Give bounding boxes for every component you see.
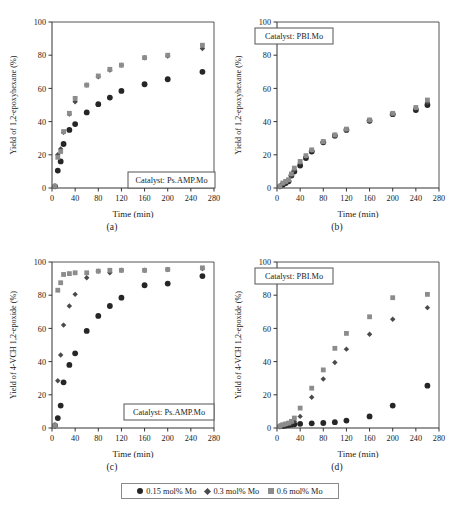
svg-text:0: 0 (42, 184, 46, 193)
svg-text:Time (min): Time (min) (113, 209, 154, 218)
svg-text:80: 80 (263, 51, 271, 60)
svg-text:0: 0 (267, 424, 271, 433)
svg-text:0: 0 (50, 194, 54, 203)
svg-text:160: 160 (138, 194, 150, 203)
svg-text:40: 40 (263, 358, 271, 367)
svg-text:80: 80 (319, 194, 327, 203)
legend-label-2: 0.6 mol% Mo (277, 487, 323, 496)
plot-b-svg: 02040608010004080120160200240280Time (mi… (225, 0, 449, 218)
svg-text:40: 40 (296, 194, 304, 203)
svg-text:Time (min): Time (min) (113, 449, 154, 458)
panel-caption-c: (c) (0, 462, 224, 472)
svg-text:60: 60 (263, 325, 271, 334)
svg-text:Yield of 4-VCH 1,2-epoxide (%): Yield of 4-VCH 1,2-epoxide (%) (9, 291, 18, 399)
svg-text:80: 80 (94, 194, 102, 203)
svg-text:160: 160 (363, 194, 375, 203)
svg-text:100: 100 (259, 258, 271, 267)
panel-caption-d: (d) (225, 462, 449, 472)
plot-d-svg: 02040608010004080120160200240280Time (mi… (225, 240, 449, 458)
svg-text:40: 40 (38, 358, 46, 367)
chart-panel-c: 02040608010004080120160200240280Time (mi… (0, 240, 224, 475)
svg-text:Time (min): Time (min) (338, 209, 379, 218)
svg-text:Catalyst: PBI.Mo: Catalyst: PBI.Mo (265, 32, 323, 41)
svg-text:20: 20 (38, 391, 46, 400)
svg-text:120: 120 (340, 434, 352, 443)
svg-text:280: 280 (208, 194, 220, 203)
svg-text:120: 120 (340, 194, 352, 203)
figure-legend: 0.15 mol% Mo 0.3 mol% Mo 0.6 mol% Mo (121, 483, 339, 499)
svg-text:40: 40 (263, 118, 271, 127)
figure-container: 02040608010004080120160200240280Time (mi… (0, 0, 449, 510)
svg-text:240: 240 (410, 194, 422, 203)
svg-text:240: 240 (185, 194, 197, 203)
circle-marker-icon (137, 488, 143, 494)
svg-text:Catalyst: Ps.AMP.Mo: Catalyst: Ps.AMP.Mo (133, 408, 205, 417)
svg-text:60: 60 (38, 85, 46, 94)
svg-text:20: 20 (263, 151, 271, 160)
svg-text:40: 40 (71, 434, 79, 443)
square-marker-icon (268, 488, 274, 494)
svg-text:Time (min): Time (min) (338, 449, 379, 458)
svg-text:100: 100 (259, 18, 271, 27)
svg-text:80: 80 (263, 291, 271, 300)
svg-text:40: 40 (296, 434, 304, 443)
svg-text:120: 120 (115, 194, 127, 203)
legend-label-1: 0.3 mol% Mo (213, 487, 259, 496)
svg-text:40: 40 (38, 118, 46, 127)
svg-text:160: 160 (138, 434, 150, 443)
svg-text:280: 280 (433, 434, 445, 443)
legend-label-0: 0.15 mol% Mo (146, 487, 196, 496)
chart-panel-b: 02040608010004080120160200240280Time (mi… (225, 0, 449, 235)
chart-panel-d: 02040608010004080120160200240280Time (mi… (225, 240, 449, 475)
svg-text:200: 200 (387, 194, 399, 203)
svg-text:20: 20 (263, 391, 271, 400)
svg-text:60: 60 (263, 85, 271, 94)
svg-text:80: 80 (94, 434, 102, 443)
svg-text:0: 0 (275, 194, 279, 203)
svg-text:280: 280 (208, 434, 220, 443)
svg-text:0: 0 (267, 184, 271, 193)
legend-item-1: 0.3 mol% Mo (205, 487, 259, 496)
svg-text:80: 80 (38, 51, 46, 60)
svg-text:280: 280 (433, 194, 445, 203)
svg-text:240: 240 (185, 434, 197, 443)
plot-a-svg: 02040608010004080120160200240280Time (mi… (0, 0, 224, 218)
legend-item-2: 0.6 mol% Mo (268, 487, 322, 496)
svg-text:0: 0 (275, 434, 279, 443)
svg-text:240: 240 (410, 434, 422, 443)
svg-text:100: 100 (34, 18, 46, 27)
diamond-marker-icon (204, 487, 211, 494)
svg-text:0: 0 (42, 424, 46, 433)
svg-text:Yield of 1,2-epoxyhexane (%): Yield of 1,2-epoxyhexane (%) (9, 55, 18, 154)
svg-text:Catalyst: Ps.AMP.Mo: Catalyst: Ps.AMP.Mo (135, 176, 207, 185)
svg-text:40: 40 (71, 194, 79, 203)
svg-text:200: 200 (162, 434, 174, 443)
plot-c-svg: 02040608010004080120160200240280Time (mi… (0, 240, 224, 458)
svg-text:Catalyst: PBI.Mo: Catalyst: PBI.Mo (265, 272, 323, 281)
panel-caption-a: (a) (0, 222, 224, 232)
svg-text:Yield of 1,2-epoxyhexane (%): Yield of 1,2-epoxyhexane (%) (234, 55, 243, 154)
svg-text:160: 160 (363, 434, 375, 443)
svg-text:0: 0 (50, 434, 54, 443)
panel-caption-b: (b) (225, 222, 449, 232)
svg-text:100: 100 (34, 258, 46, 267)
svg-text:20: 20 (38, 151, 46, 160)
legend-item-0: 0.15 mol% Mo (137, 487, 196, 496)
svg-text:120: 120 (115, 434, 127, 443)
svg-text:Yield of 4-VCH 1,2-epoxide (%): Yield of 4-VCH 1,2-epoxide (%) (234, 291, 243, 399)
svg-text:200: 200 (387, 434, 399, 443)
svg-text:80: 80 (38, 291, 46, 300)
svg-text:60: 60 (38, 325, 46, 334)
chart-panel-a: 02040608010004080120160200240280Time (mi… (0, 0, 224, 235)
svg-text:200: 200 (162, 194, 174, 203)
svg-text:80: 80 (319, 434, 327, 443)
